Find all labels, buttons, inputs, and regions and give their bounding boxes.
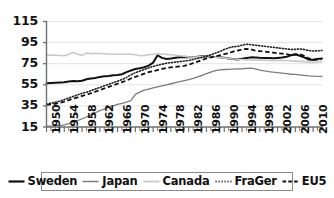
dashed-black-icon <box>282 177 299 186</box>
legend-item-sweden[interactable]: Sweden <box>8 176 78 188</box>
y-tick-label: 15 <box>4 121 38 134</box>
legend-item-canada[interactable]: Canada <box>143 176 210 188</box>
x-tick-label: 1978 <box>175 105 186 134</box>
x-tick-label: 2006 <box>300 105 311 134</box>
legend-label: Sweden <box>28 176 78 188</box>
solid-gray-icon <box>82 177 99 186</box>
y-tick-label: 75 <box>4 57 38 70</box>
y-tick-label: 95 <box>4 36 38 49</box>
legend-label: EU5 <box>302 176 327 188</box>
solid-lightgray-icon <box>143 177 160 186</box>
solid-black-thick-icon <box>8 177 25 186</box>
legend-item-frager[interactable]: FraGer <box>215 176 277 188</box>
x-tick-label: 1998 <box>264 105 275 134</box>
x-tick-label: 1982 <box>193 105 204 134</box>
legend-label: FraGer <box>235 176 277 188</box>
x-tick-label: 1954 <box>69 105 80 134</box>
x-tick-label: 1950 <box>51 105 62 134</box>
legend-label: Japan <box>102 176 137 188</box>
legend-label: Canada <box>163 176 210 188</box>
x-tick-label: 2010 <box>318 105 329 134</box>
legend-item-japan[interactable]: Japan <box>82 176 137 188</box>
dotted-black-icon <box>215 177 232 186</box>
x-tick-label: 1970 <box>140 105 151 134</box>
x-tick-label: 2002 <box>282 105 293 134</box>
y-tick-label: 55 <box>4 78 38 91</box>
chart-legend: SwedenJapanCanadaFraGerEU5 <box>41 172 293 191</box>
x-tick-label: 1990 <box>229 105 240 134</box>
chart-container: 1159575553515 19501954195819621966197019… <box>0 0 334 198</box>
y-tick-label: 35 <box>4 99 38 112</box>
y-tick-label: 115 <box>4 15 38 28</box>
legend-item-eu5[interactable]: EU5 <box>282 176 327 188</box>
x-tick-label: 1986 <box>211 105 222 134</box>
line-chart-plot <box>0 0 334 198</box>
x-tick-label: 1994 <box>247 105 258 134</box>
x-tick-label: 1958 <box>87 105 98 134</box>
x-tick-label: 1966 <box>122 105 133 134</box>
series-line-sweden <box>47 54 323 83</box>
x-tick-label: 1962 <box>104 105 115 134</box>
x-tick-label: 1974 <box>158 105 169 134</box>
